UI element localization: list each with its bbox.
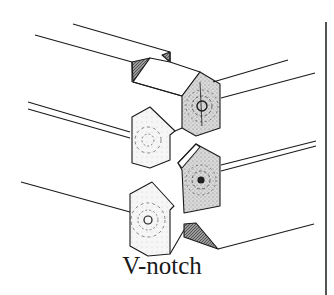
bottom-notch xyxy=(184,223,314,249)
lower-left-log xyxy=(21,182,184,256)
middle-right-end-face xyxy=(178,138,316,213)
top-log xyxy=(35,24,200,96)
top-right-end-face xyxy=(182,60,315,136)
figure-caption: V-notch xyxy=(0,252,334,280)
middle-left-log xyxy=(28,102,182,168)
v-notch-illustration xyxy=(0,0,334,295)
